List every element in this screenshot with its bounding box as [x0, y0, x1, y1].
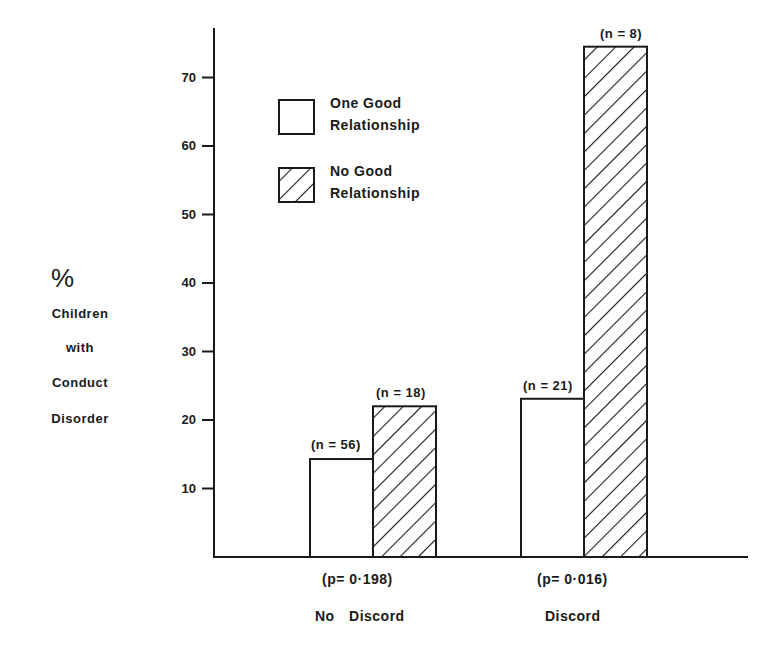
category-label: No Discord [315, 608, 405, 624]
legend-label: Relationship [330, 185, 420, 201]
y-tick-label: 20 [166, 412, 196, 427]
bar-no-good-relationship [584, 47, 647, 557]
legend-label: Relationship [330, 117, 420, 133]
category-pvalue: (p= 0·198) [322, 571, 393, 587]
y-axis-label-line: Children [30, 306, 130, 321]
bar-no-good-relationship [373, 406, 436, 557]
y-tick-label: 30 [166, 344, 196, 359]
bar-n-label: (n = 56) [311, 437, 361, 452]
legend-label: One Good [330, 95, 402, 111]
bar-one-good-relationship [310, 459, 373, 557]
category-pvalue: (p= 0·016) [537, 571, 608, 587]
legend-label: No Good [330, 163, 393, 179]
y-axis-label-line: Conduct [30, 375, 130, 390]
y-tick-label: 40 [166, 275, 196, 290]
bar-chart: 10203040506070 % Children with Conduct D… [0, 0, 779, 657]
y-axis-label-percent: % [51, 263, 74, 294]
legend-swatch-white [279, 100, 314, 134]
bar-n-label: (n = 21) [523, 378, 573, 393]
y-tick-label: 60 [166, 138, 196, 153]
legend-swatch-hatched [279, 168, 314, 202]
category-label: Discord [545, 608, 601, 624]
y-tick-label: 50 [166, 207, 196, 222]
y-ticks [202, 78, 214, 489]
y-axis-label-line: Disorder [30, 411, 130, 426]
bar-one-good-relationship [521, 399, 584, 557]
bar-n-label: (n = 8) [600, 26, 642, 41]
y-tick-label: 70 [166, 70, 196, 85]
bar-n-label: (n = 18) [376, 385, 426, 400]
y-tick-label: 10 [166, 481, 196, 496]
y-axis-label-line: with [30, 340, 130, 355]
